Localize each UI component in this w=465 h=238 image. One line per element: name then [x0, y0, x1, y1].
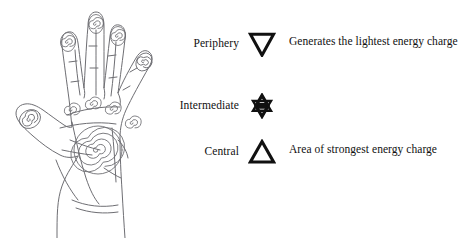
palm-line-life — [72, 122, 99, 204]
hexagram-star-icon — [239, 92, 285, 119]
legend-description-periphery: Generates the lightest energy charge — [285, 30, 465, 49]
up-triangle-icon — [239, 138, 285, 165]
legend-row-central: Central Area of strongest energy charge — [175, 138, 465, 165]
legend-description-central: Area of strongest energy charge — [285, 138, 465, 157]
knuckle-crease-6 — [109, 77, 117, 78]
hand-illustration — [0, 0, 185, 238]
legend-description-intermediate — [285, 92, 465, 97]
intermediate-spiral-2 — [64, 103, 80, 115]
finger-web-index-middle — [84, 88, 85, 98]
legend-row-intermediate: Intermediate — [175, 92, 465, 119]
central-palm-spiral — [71, 126, 125, 174]
intermediate-spiral-3 — [105, 102, 121, 114]
palm-line-wrist — [72, 200, 118, 206]
hand-drawing-svg — [0, 0, 185, 238]
legend-label-periphery: Periphery — [175, 30, 239, 50]
knuckle-crease-7 — [130, 68, 137, 72]
legend-row-periphery: Periphery Generates the lightest energy … — [175, 30, 465, 57]
down-triangle-icon — [239, 30, 285, 57]
hand-energy-zones-figure: Periphery Generates the lightest energy … — [0, 0, 465, 238]
finger-crease-ring — [111, 42, 116, 96]
legend-label-intermediate: Intermediate — [175, 92, 239, 112]
fingertip-spiral-pinky — [133, 50, 156, 74]
fingertip-spiral-ring — [111, 27, 126, 46]
palm-line-wrist-2 — [76, 208, 118, 213]
legend-label-central: Central — [175, 138, 239, 158]
finger-crease-index — [75, 50, 80, 95]
legend: Periphery Generates the lightest energy … — [175, 0, 465, 238]
fingertip-spiral-thumb — [16, 106, 44, 132]
knuckle-crease-8 — [123, 86, 130, 90]
intermediate-spiral-4 — [125, 116, 141, 128]
finger-web-middle-ring — [104, 88, 105, 99]
palm-line-minor-2 — [62, 150, 92, 155]
fingertip-spiral-index — [61, 33, 76, 52]
